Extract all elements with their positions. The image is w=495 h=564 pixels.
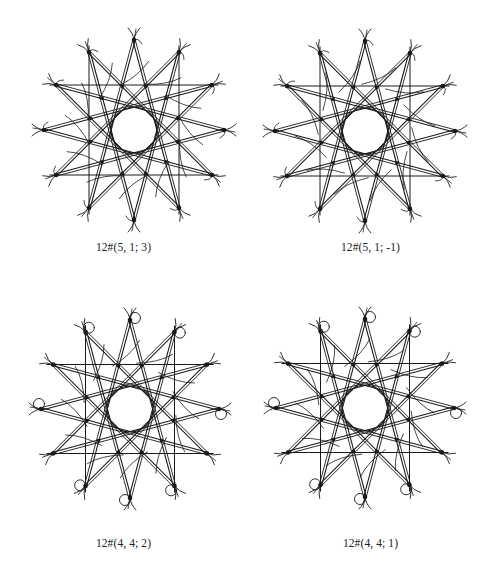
star-knot-diagram-1: [0, 0, 247, 282]
star-knot-diagram-4: [247, 282, 494, 564]
panel-4: 12#(4, 4; 1): [247, 282, 494, 564]
caption-1: 12#(5, 1; 3): [0, 241, 247, 253]
caption-3: 12#(4, 4; 2): [0, 537, 247, 549]
panel-1: 12#(5, 1; 3): [0, 0, 247, 282]
star-knot-diagram-2: [247, 0, 494, 282]
caption-2: 12#(5, 1; -1): [247, 241, 494, 253]
star-knot-diagram-3: [0, 282, 247, 564]
panel-2: 12#(5, 1; -1): [247, 0, 494, 282]
caption-4: 12#(4, 4; 1): [247, 537, 494, 549]
panel-3: 12#(4, 4; 2): [0, 282, 247, 564]
